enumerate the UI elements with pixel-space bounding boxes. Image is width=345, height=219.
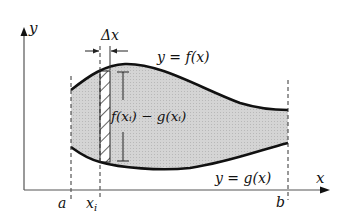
y-axis-label: y (28, 19, 38, 37)
area-between-curves-diagram: y x Δx y = f(x) y = g(x) f(xᵢ) − g(xᵢ) a… (0, 0, 345, 219)
arrowhead-icon (111, 49, 117, 54)
tick-b-label: b (276, 194, 285, 210)
height-label: f(xᵢ) − g(xᵢ) (110, 108, 186, 124)
tick-xi-label: xi (86, 195, 97, 213)
representative-rectangle (100, 71, 110, 162)
arrowhead-icon (93, 49, 99, 54)
delta-x-label: Δx (100, 27, 119, 43)
tick-a-label: a (58, 195, 66, 211)
x-axis-arrow-icon (320, 187, 330, 194)
x-axis-label: x (316, 169, 325, 187)
f-curve-label: y = f(x) (156, 49, 210, 65)
g-curve-label: y = g(x) (214, 170, 271, 186)
y-axis-arrow-icon (21, 27, 28, 36)
